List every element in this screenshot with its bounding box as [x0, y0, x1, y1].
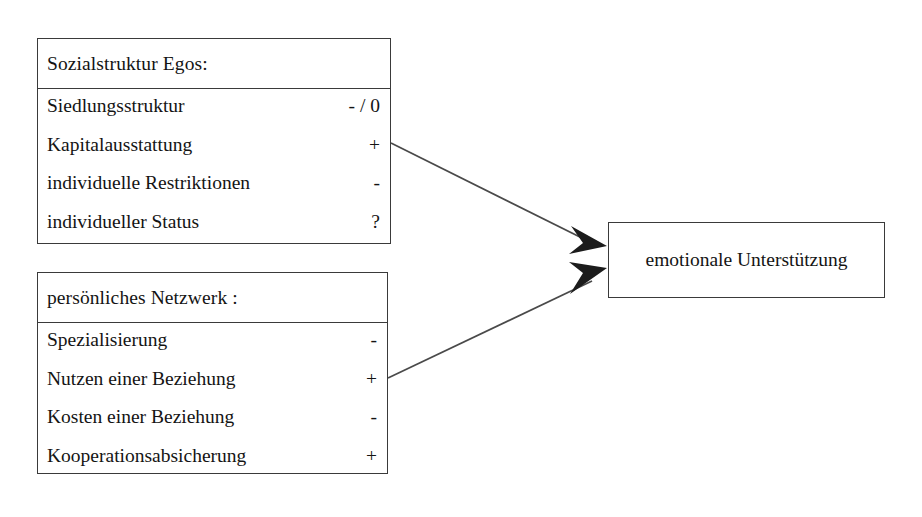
- row-label: Spezialisierung: [47, 329, 343, 351]
- row-value: +: [346, 134, 380, 156]
- connector-line-network: [388, 281, 592, 378]
- box-header-netzwerk: persönliches Netzwerk :: [38, 273, 387, 323]
- row-label: Kooperationsabsicherung: [47, 445, 343, 467]
- row-value: ?: [346, 211, 380, 233]
- row-value: +: [343, 368, 377, 390]
- connector-line-social: [391, 143, 592, 243]
- box-header-label-sozialstruktur: Sozialstruktur Egos:: [47, 53, 208, 75]
- box-emotionale-unterstuetzung: emotionale Unterstützung: [608, 222, 885, 298]
- outcome-label: emotionale Unterstützung: [646, 249, 848, 271]
- table-row: Kooperationsabsicherung +: [38, 445, 387, 484]
- table-row: Spezialisierung -: [38, 329, 387, 368]
- box-persoenliches-netzwerk: persönliches Netzwerk : Spezialisierung …: [37, 272, 388, 474]
- table-row: Nutzen einer Beziehung +: [38, 368, 387, 407]
- table-row: individueller Status ?: [38, 211, 390, 250]
- connector-social-to-outcome: [391, 143, 607, 254]
- row-label: Kapitalausstattung: [47, 134, 346, 156]
- table-row: Kapitalausstattung +: [38, 134, 390, 173]
- row-value: -: [343, 329, 377, 351]
- table-row: Kosten einer Beziehung -: [38, 406, 387, 445]
- box-sozialstruktur-egos: Sozialstruktur Egos: Siedlungsstruktur -…: [37, 38, 391, 244]
- arrowhead-icon-network: [569, 262, 607, 294]
- box-body-netzwerk: Spezialisierung - Nutzen einer Beziehung…: [38, 323, 387, 483]
- row-label: Siedlungsstruktur: [47, 95, 346, 117]
- row-value: +: [343, 445, 377, 467]
- row-label: individueller Status: [47, 211, 346, 233]
- row-label: Kosten einer Beziehung: [47, 406, 343, 428]
- row-value: - / 0: [346, 95, 380, 117]
- box-body-sozialstruktur: Siedlungsstruktur - / 0 Kapitalausstattu…: [38, 89, 390, 249]
- table-row: Siedlungsstruktur - / 0: [38, 95, 390, 134]
- connector-network-to-outcome: [388, 262, 607, 378]
- row-label: Nutzen einer Beziehung: [47, 368, 343, 390]
- table-row: individuelle Restriktionen -: [38, 172, 390, 211]
- row-value: -: [343, 406, 377, 428]
- diagram-canvas: Sozialstruktur Egos: Siedlungsstruktur -…: [0, 0, 922, 517]
- box-header-sozialstruktur: Sozialstruktur Egos:: [38, 39, 390, 89]
- arrowhead-icon-social: [569, 226, 607, 254]
- box-header-label-netzwerk: persönliches Netzwerk :: [47, 287, 238, 309]
- row-value: -: [346, 172, 380, 194]
- row-label: individuelle Restriktionen: [47, 172, 346, 194]
